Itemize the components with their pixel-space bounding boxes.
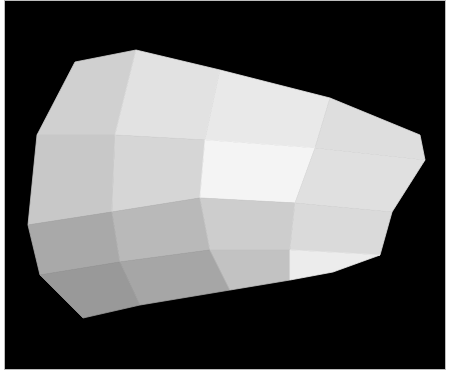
mesh-facet <box>205 70 330 148</box>
mesh-facet <box>28 135 115 225</box>
mesh-facet <box>200 140 315 203</box>
mesh-facet <box>295 148 425 212</box>
mesh-facet <box>200 198 295 250</box>
mesh-facet <box>290 250 380 280</box>
mesh-facet <box>290 203 392 255</box>
3d-mesh-render <box>0 0 455 377</box>
